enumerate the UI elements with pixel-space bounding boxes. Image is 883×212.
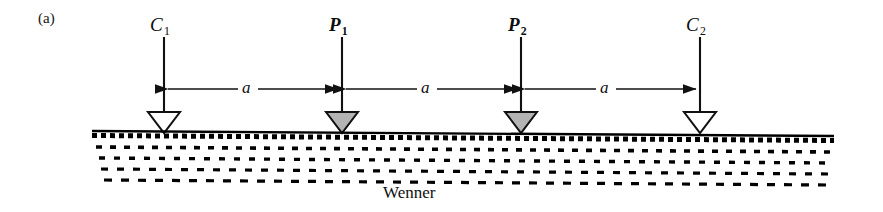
electrode-label-c1-text: C — [150, 14, 163, 35]
triangle-down-icon-c2 — [684, 112, 716, 133]
electrode-label-c2-text: C — [686, 14, 699, 35]
electrode-label-c1: C1 — [150, 14, 169, 36]
triangle-down-icon-p2 — [505, 112, 537, 133]
ground-layer-4 — [104, 180, 826, 185]
electrode-label-c1-subscript: 1 — [164, 25, 170, 38]
spacing-label-a1: a — [242, 78, 251, 98]
ground-layer-3 — [101, 169, 828, 174]
array-name-label: Wenner — [383, 183, 435, 203]
wenner-array-drawing — [0, 0, 883, 212]
ground-layer-1 — [96, 147, 832, 152]
electrode-lead-wires — [164, 37, 700, 113]
electrode-label-p2: P2 — [508, 14, 526, 36]
electrode-label-p1-subscript: 1 — [342, 25, 348, 38]
electrode-label-p1-text: P — [329, 14, 341, 35]
spacing-label-a3: a — [600, 78, 609, 98]
triangle-down-icon-c1 — [148, 112, 180, 133]
ground-layer-2 — [99, 158, 830, 163]
panel-label: (a) — [38, 10, 55, 27]
electrode-label-p2-text: P — [508, 14, 520, 35]
electrode-label-p1: P1 — [329, 14, 347, 36]
ground-hatch-icon — [92, 131, 834, 185]
triangle-down-icon-p1 — [326, 112, 358, 133]
electrode-symbols — [148, 112, 716, 133]
spacing-label-a2: a — [421, 78, 430, 98]
electrode-label-p2-subscript: 2 — [521, 25, 527, 38]
electrode-label-c2: C2 — [686, 14, 705, 36]
electrode-label-c2-subscript: 2 — [700, 25, 706, 38]
wenner-array-figure: (a) C1 P1 P2 C2 a a a Wenner — [0, 0, 883, 212]
